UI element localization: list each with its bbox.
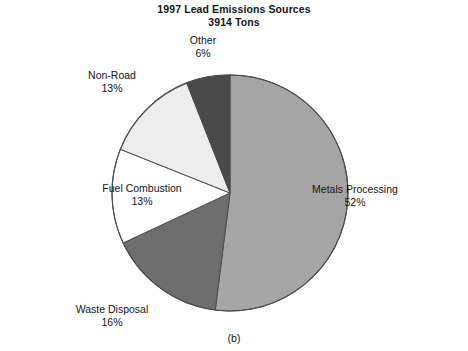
pie-label-other-percent: 6%	[190, 47, 216, 60]
pie-label-metals-processing-percent: 52%	[312, 196, 398, 209]
pie-label-non-road-name: Non-Road	[88, 69, 136, 82]
pie-label-fuel-combustion-percent: 13%	[102, 195, 181, 208]
pie-label-waste-disposal-percent: 16%	[76, 316, 149, 329]
pie-label-waste-disposal: Waste Disposal 16%	[76, 303, 149, 329]
pie-label-metals-processing-name: Metals Processing	[312, 183, 398, 196]
pie-label-other-name: Other	[190, 34, 216, 47]
pie-label-non-road-percent: 13%	[88, 82, 136, 95]
pie-label-non-road: Non-Road 13%	[88, 69, 136, 95]
pie-label-other: Other 6%	[190, 34, 216, 60]
pie-chart-figure: 1997 Lead Emissions Sources 3914 Tons Ot…	[0, 0, 468, 351]
chart-plot-area: Other 6% Non-Road 13% Fuel Combustion 13…	[0, 0, 468, 351]
pie-label-waste-disposal-name: Waste Disposal	[76, 303, 149, 316]
pie-label-fuel-combustion: Fuel Combustion 13%	[102, 182, 181, 208]
figure-caption: (b)	[0, 332, 468, 345]
pie-chart-svg	[0, 0, 468, 351]
pie-label-fuel-combustion-name: Fuel Combustion	[102, 182, 181, 195]
pie-label-metals-processing: Metals Processing 52%	[312, 183, 398, 209]
